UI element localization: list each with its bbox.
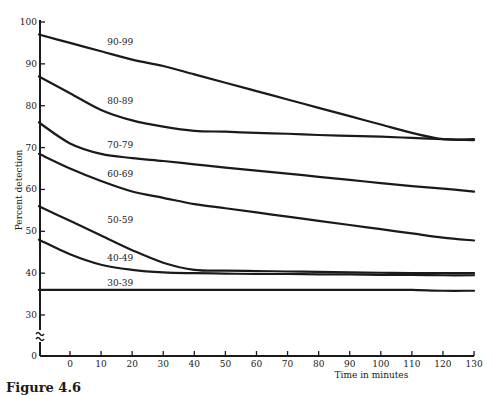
x-tick-label: 50 (220, 359, 232, 369)
x-tick-label: 130 (465, 359, 482, 369)
y-tick-label: 30 (26, 310, 38, 320)
x-axis-title: Time in minutes (335, 370, 409, 380)
series-label-70-79: 70-79 (107, 140, 133, 150)
x-tick-label: 70 (282, 359, 294, 369)
y-tick-label: 100 (20, 17, 37, 27)
series-line-90-99 (39, 35, 474, 140)
x-tick-label: 20 (126, 359, 138, 369)
x-tick-label: 30 (158, 359, 170, 369)
y-tick-label: 40 (26, 268, 38, 278)
series-line-50-59 (39, 206, 474, 273)
axis-break-icon (36, 333, 44, 341)
series-group (39, 35, 474, 291)
x-tick-label: 100 (372, 359, 389, 369)
y-tick-label: 70 (26, 143, 38, 153)
y-tick-label: 80 (26, 101, 38, 111)
series-label-60-69: 60-69 (107, 169, 133, 179)
series-label-90-99: 90-99 (107, 37, 133, 47)
x-tick-label: 80 (313, 359, 325, 369)
series-line-30-39 (39, 290, 474, 291)
x-tick-label: 60 (251, 359, 263, 369)
x-tick-label: 10 (95, 359, 107, 369)
y-tick-label: 90 (26, 59, 38, 69)
series-label-80-89: 80-89 (107, 96, 133, 106)
series-line-80-89 (39, 76, 474, 140)
figure-caption: Figure 4.6 (6, 380, 81, 395)
y-axis-title: Percent detection (14, 149, 24, 230)
x-tick-label: 40 (189, 359, 201, 369)
axes: 0304050607080901000102030405060708090100… (14, 17, 483, 380)
x-tick-label: 120 (434, 359, 451, 369)
series-line-40-49 (39, 240, 474, 276)
series-line-60-69 (39, 154, 474, 241)
series-label-50-59: 50-59 (107, 215, 133, 225)
x-tick-label: 90 (344, 359, 356, 369)
x-tick-label: 110 (403, 359, 420, 369)
series-label-30-39: 30-39 (107, 278, 133, 288)
y-tick-label: 50 (26, 226, 38, 236)
x-tick-label: 0 (67, 359, 73, 369)
series-label-40-49: 40-49 (107, 253, 133, 263)
y-tick-label: 60 (26, 184, 38, 194)
y-tick-label: 0 (31, 351, 37, 361)
